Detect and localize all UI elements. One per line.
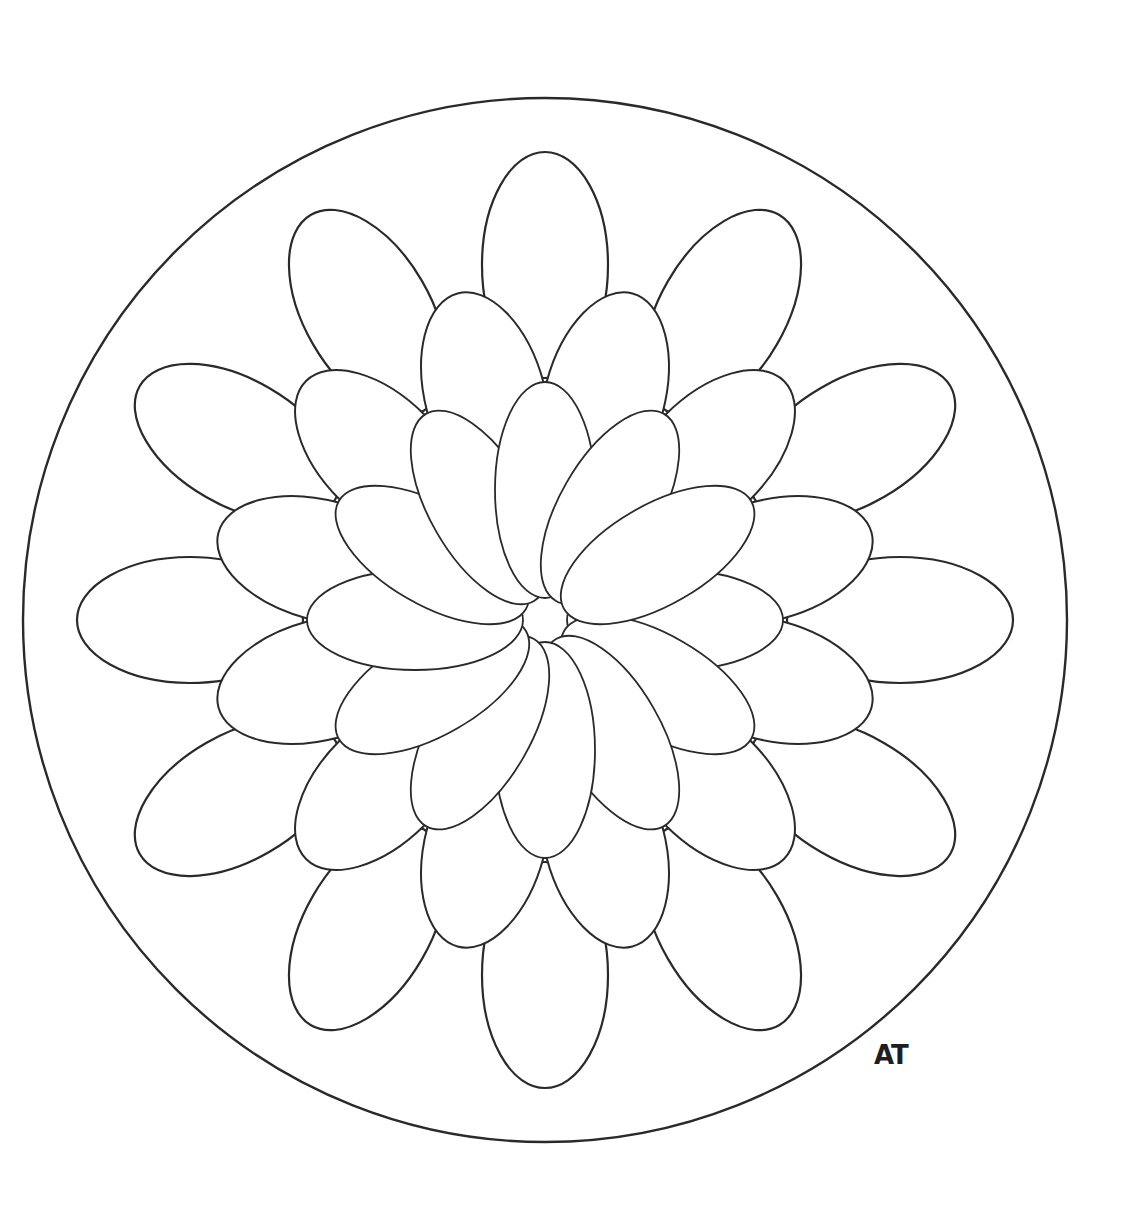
petal-ring-outer [77,152,1013,1088]
mandala-artwork [0,0,1144,1225]
artist-signature: AT [874,1040,908,1070]
petal-rings [77,152,1013,1088]
petal-ring-middle [203,278,887,962]
